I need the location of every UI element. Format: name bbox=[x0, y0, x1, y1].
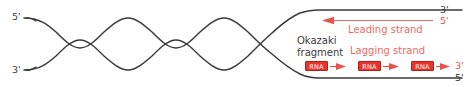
label-right-top-inner-prime: 5' bbox=[440, 16, 449, 26]
dna-helix-illustration bbox=[0, 0, 467, 87]
lagging-strand-arrow-2 bbox=[383, 63, 399, 70]
dna-strand-b bbox=[24, 10, 462, 70]
rna-primer-box: RNA bbox=[305, 61, 328, 71]
label-right-bottom-inner-prime: 3' bbox=[455, 61, 464, 71]
leading-strand-label: Leading strand bbox=[348, 25, 423, 35]
label-left-bottom-prime: 3' bbox=[12, 65, 21, 75]
lagging-strand-arrow-1 bbox=[330, 63, 346, 70]
left-end-leaders bbox=[26, 18, 36, 71]
dna-replication-fork-figure: 5' 3' 3' 5' 3' 5' Okazaki fragment Leadi… bbox=[0, 0, 467, 87]
rna-primer-box: RNA bbox=[411, 61, 434, 71]
label-right-bottom-outer-prime: 5' bbox=[455, 73, 464, 83]
okazaki-fragment-line-1: Okazaki bbox=[297, 35, 343, 47]
label-right-top-outer-prime: 3' bbox=[440, 5, 449, 15]
rna-primer-box: RNA bbox=[358, 61, 381, 71]
okazaki-fragment-line-2: fragment bbox=[297, 47, 343, 59]
lagging-strand-arrow-3 bbox=[436, 63, 450, 70]
label-left-top-prime: 5' bbox=[12, 12, 21, 22]
okazaki-fragment-label: Okazaki fragment bbox=[297, 35, 343, 58]
lagging-strand-label: Lagging strand bbox=[350, 46, 425, 56]
